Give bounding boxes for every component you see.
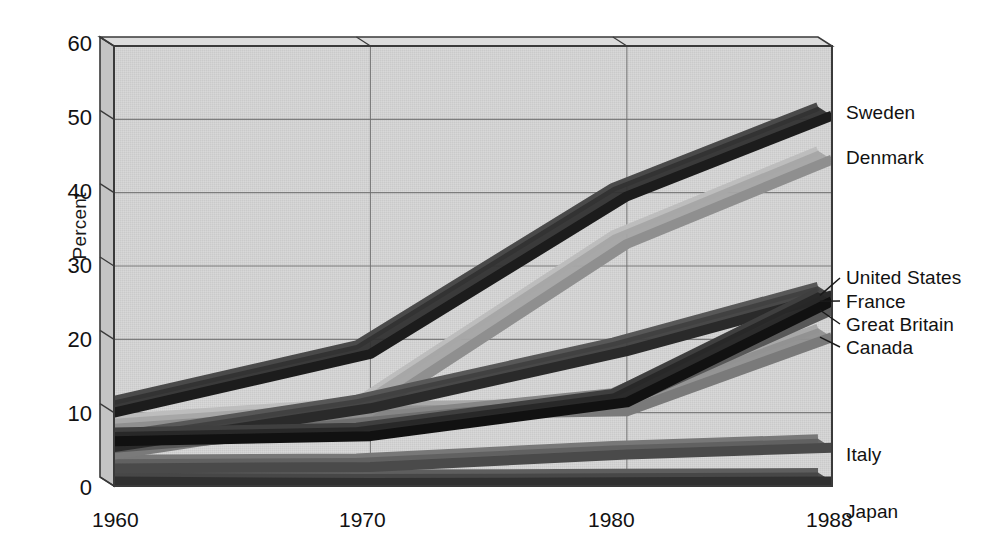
series-label-japan: Japan <box>846 502 898 521</box>
plot-area <box>0 0 990 554</box>
panel-top-face <box>100 37 832 46</box>
series-label-sweden: Sweden <box>846 103 915 122</box>
series-label-great-britain: Great Britain <box>846 315 954 334</box>
series-label-denmark: Denmark <box>846 148 924 167</box>
series-label-italy: Italy <box>846 445 881 464</box>
series-label-canada: Canada <box>846 338 913 357</box>
series-label-france: France <box>846 292 906 311</box>
series-line-japan <box>100 473 832 483</box>
chart-root: Percent 0 10 20 30 40 50 60 1960 1970 19… <box>0 0 990 554</box>
series-label-united-states: United States <box>846 268 961 287</box>
